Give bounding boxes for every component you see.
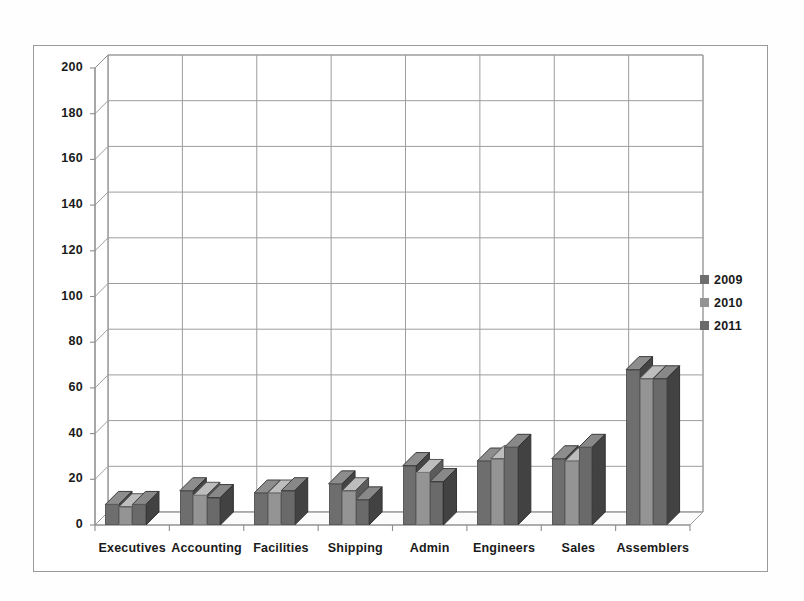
bar-2009-admin xyxy=(403,466,417,525)
legend-item: 2011 xyxy=(700,314,743,337)
legend-swatch-icon xyxy=(700,321,709,330)
bar-2011-shipping xyxy=(356,500,370,525)
bar-2009-assemblers xyxy=(626,370,640,525)
bar-2011-admin xyxy=(430,482,444,525)
y-axis-label: 0 xyxy=(43,517,83,531)
bar-2011-executives xyxy=(132,504,146,525)
bar-2009-facilities xyxy=(254,493,268,525)
legend-swatch-icon xyxy=(700,298,709,307)
x-axis-label: Accounting xyxy=(169,541,243,555)
bar-2010-engineers xyxy=(491,459,505,525)
chart-legend: 200920102011 xyxy=(700,268,743,337)
chart-plot-area: 200180160140120100806040200 ExecutivesAc… xyxy=(0,0,804,601)
y-axis-label: 140 xyxy=(43,197,83,211)
y-axis-label: 160 xyxy=(43,151,83,165)
x-axis-label: Shipping xyxy=(318,541,392,555)
legend-label: 2010 xyxy=(714,296,743,310)
y-axis-label: 60 xyxy=(43,380,83,394)
x-axis-label: Assemblers xyxy=(616,541,690,555)
bar-2010-shipping xyxy=(342,491,356,525)
y-axis-label: 180 xyxy=(43,106,83,120)
y-axis-label: 40 xyxy=(43,426,83,440)
bar-2009-executives xyxy=(105,504,119,525)
bar-2010-admin xyxy=(416,472,430,525)
bar-2010-executives xyxy=(119,507,133,525)
legend-swatch-icon xyxy=(700,275,709,284)
bar-2011-accounting xyxy=(207,498,221,525)
y-axis-label: 120 xyxy=(43,243,83,257)
bar-2009-sales xyxy=(552,459,566,525)
bar-2010-facilities xyxy=(268,493,282,525)
x-axis-label: Admin xyxy=(393,541,467,555)
y-axis-label: 80 xyxy=(43,334,83,348)
bar-2010-accounting xyxy=(193,495,207,525)
bar-2010-sales xyxy=(565,461,579,525)
legend-item: 2010 xyxy=(700,291,743,314)
bar-2011-assemblers xyxy=(653,379,667,525)
x-axis-label: Engineers xyxy=(467,541,541,555)
bar-2009-accounting xyxy=(180,491,194,525)
x-axis-label: Sales xyxy=(541,541,615,555)
bar-2011-engineers xyxy=(504,447,518,525)
bar-2009-engineers xyxy=(477,461,491,525)
bar-2011-facilities xyxy=(281,491,295,525)
x-axis-label: Facilities xyxy=(244,541,318,555)
bar-2011-sales xyxy=(579,447,593,525)
legend-item: 2009 xyxy=(700,268,743,291)
y-axis-label: 200 xyxy=(43,60,83,74)
legend-label: 2011 xyxy=(714,319,742,333)
chart-screenshot: 200180160140120100806040200 ExecutivesAc… xyxy=(0,0,804,601)
y-axis-label: 100 xyxy=(43,289,83,303)
y-axis-label: 20 xyxy=(43,471,83,485)
bar-2009-shipping xyxy=(329,484,343,525)
legend-label: 2009 xyxy=(714,273,743,287)
x-axis-label: Executives xyxy=(95,541,169,555)
bar-2010-assemblers xyxy=(640,379,654,525)
